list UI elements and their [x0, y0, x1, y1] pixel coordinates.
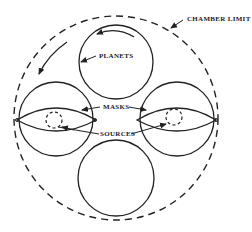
chamber-limit-leader	[171, 20, 183, 28]
mask-right	[137, 108, 216, 131]
planet-left	[19, 82, 93, 156]
sources-label: SOURCES	[100, 131, 135, 138]
chamber-limit-circle	[14, 16, 218, 220]
mask-left	[17, 108, 96, 131]
source-left	[46, 112, 62, 128]
planetary-chamber-diagram	[0, 0, 252, 232]
masks-label: MASKS	[103, 104, 129, 111]
planet-right	[140, 82, 214, 156]
chamber-limit-label: CHAMBER LIMIT	[187, 16, 251, 23]
planets-label: PLANETS	[99, 53, 133, 60]
planet-top	[79, 25, 153, 99]
source-right	[166, 109, 182, 125]
masks-leader-right	[129, 107, 146, 110]
planets-leader	[81, 56, 96, 62]
planet-bottom	[78, 140, 154, 216]
planet-rotation-arrow-icon	[97, 31, 134, 37]
